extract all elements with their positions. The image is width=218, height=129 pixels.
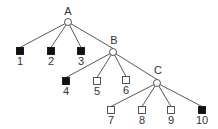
edge-B-5 xyxy=(97,52,113,78)
leaf-label-6: 6 xyxy=(123,84,129,96)
decision-node-B xyxy=(110,49,117,56)
edge-B-4 xyxy=(66,52,113,78)
edge-B-C xyxy=(113,52,157,80)
decision-node-A xyxy=(65,19,72,26)
filled-leaf-3 xyxy=(78,48,85,55)
node-label-C: C xyxy=(154,64,162,76)
decision-node-C xyxy=(154,80,161,87)
leaf-label-4: 4 xyxy=(63,85,69,97)
empty-leaf-6 xyxy=(123,77,130,84)
leaf-label-1: 1 xyxy=(17,55,23,67)
node-label-B: B xyxy=(110,34,117,46)
filled-leaf-2 xyxy=(48,48,55,55)
filled-leaf-1 xyxy=(17,48,24,55)
tree-diagram: ABC12345678910 xyxy=(0,0,218,129)
leaf-label-8: 8 xyxy=(139,114,145,126)
node-label-A: A xyxy=(64,5,72,17)
leaf-label-3: 3 xyxy=(78,55,84,67)
filled-leaf-10 xyxy=(199,107,206,114)
leaf-label-9: 9 xyxy=(168,114,174,126)
empty-leaf-5 xyxy=(94,78,101,85)
leaf-label-10: 10 xyxy=(196,114,208,126)
edge-A-2 xyxy=(51,22,68,48)
empty-leaf-8 xyxy=(139,107,146,114)
leaf-label-2: 2 xyxy=(48,55,54,67)
empty-leaf-9 xyxy=(168,107,175,114)
leaf-label-5: 5 xyxy=(94,85,100,97)
nodes xyxy=(17,19,206,114)
leaf-label-7: 7 xyxy=(108,114,114,126)
filled-leaf-4 xyxy=(63,78,70,85)
edge-A-1 xyxy=(20,22,68,48)
edge-C-7 xyxy=(111,83,157,107)
empty-leaf-7 xyxy=(108,107,115,114)
